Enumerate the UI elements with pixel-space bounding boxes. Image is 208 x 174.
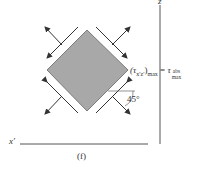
rhs-sub-max: max xyxy=(172,74,181,80)
diag-arrow-nw xyxy=(45,27,62,45)
rhs-tau: τ xyxy=(167,65,170,75)
lhs-subscript: x′z′ xyxy=(136,71,144,77)
stress-element-diagram xyxy=(0,0,208,174)
panel-label: (f) xyxy=(77,152,86,161)
equals-sign: = xyxy=(158,65,168,75)
lhs-max: max xyxy=(148,71,158,77)
diag-arrow-sw xyxy=(45,96,62,114)
angle-label: 45° xyxy=(127,95,140,104)
max-shear-equation: (τx′z′)max = τabsmax xyxy=(130,66,181,80)
rhs-subscript: absmax xyxy=(172,68,181,80)
diag-arrow-ne xyxy=(112,27,130,45)
x-prime-axis-label: x′ xyxy=(9,137,15,146)
z-axis-label: z xyxy=(158,0,162,6)
